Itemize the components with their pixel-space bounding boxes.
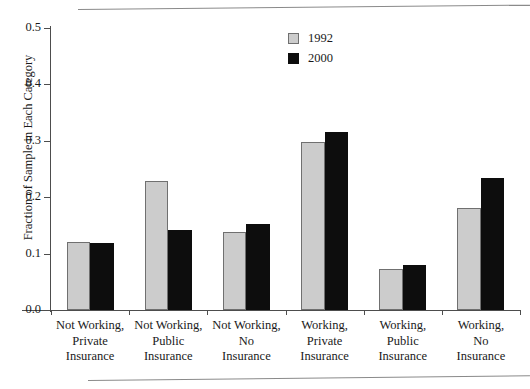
bar-chart-figure: 0.00.10.20.30.40.5 Fraction of Sample in…: [0, 0, 530, 389]
x-axis-category-label: Not Working,PublicInsurance: [129, 318, 207, 365]
bar-2000-working-public-insurance: [403, 265, 427, 310]
page-rule-top: [78, 5, 530, 10]
y-axis-tick: [44, 197, 50, 198]
chart-legend: 1992 2000: [288, 30, 333, 70]
x-axis-tick: [207, 310, 208, 315]
legend-swatch-icon-2000: [288, 53, 299, 64]
x-axis-category-label: Not Working,PrivateInsurance: [51, 318, 129, 365]
bar-1992-not-working-private-insurance: [67, 242, 91, 310]
x-axis-tick: [442, 310, 443, 315]
bar-2000-not-working-no-insurance: [246, 224, 270, 310]
x-axis-category-label: Working,NoInsurance: [442, 318, 520, 365]
legend-label-2000: 2000: [308, 52, 333, 65]
bar-2000-not-working-public-insurance: [168, 230, 192, 310]
x-axis-tick: [51, 310, 52, 315]
bar-1992-working-public-insurance: [379, 269, 403, 310]
page-rule-bottom: [88, 375, 530, 381]
legend-swatch-icon-1992: [288, 33, 299, 44]
bar-1992-not-working-no-insurance: [223, 232, 247, 310]
bars-layer: [51, 28, 520, 310]
bar-2000-working-no-insurance: [481, 178, 505, 310]
x-axis-tick: [286, 310, 287, 315]
x-axis-tick: [129, 310, 130, 315]
y-axis-tick: [44, 310, 50, 311]
y-axis-tick: [44, 84, 50, 85]
x-axis-category-label: Working,PublicInsurance: [364, 318, 442, 365]
y-axis-tick: [44, 141, 50, 142]
legend-item-2000: 2000: [288, 50, 333, 67]
x-axis-tick: [364, 310, 365, 315]
x-axis-category-labels: Not Working,PrivateInsuranceNot Working,…: [51, 318, 520, 374]
bar-1992-working-private-insurance: [301, 142, 325, 310]
x-axis-tick: [520, 310, 521, 315]
y-axis-tick: [44, 28, 50, 29]
x-axis-category-label: Working,PrivateInsurance: [286, 318, 364, 365]
y-axis-title: Fraction of Sample in Each Category: [21, 0, 36, 298]
bar-1992-working-no-insurance: [457, 208, 481, 310]
x-axis-category-label: Not Working,NoInsurance: [207, 318, 285, 365]
bar-2000-working-private-insurance: [325, 132, 349, 310]
legend-item-1992: 1992: [288, 30, 333, 47]
bar-1992-not-working-public-insurance: [145, 181, 169, 310]
y-axis-tick: [44, 254, 50, 255]
bar-2000-not-working-private-insurance: [90, 243, 114, 310]
x-axis-line: [22, 310, 520, 311]
legend-label-1992: 1992: [308, 32, 333, 45]
